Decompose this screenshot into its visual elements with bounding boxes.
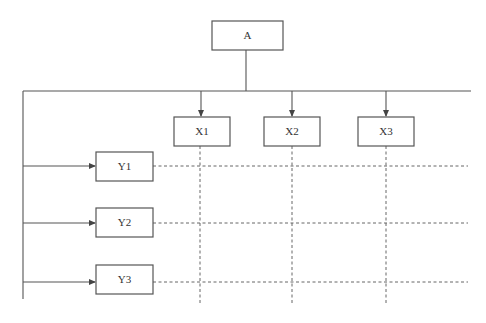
node-x3-label: X3 [379,125,393,137]
dashed-column-lines [200,146,386,303]
matrix-diagram: A X1 X2 X3 Y1 Y2 Y3 [0,0,486,323]
node-y1-label: Y1 [118,160,131,172]
node-y2: Y2 [96,208,153,237]
node-a-label: A [244,29,252,41]
node-x1: X1 [174,117,230,146]
node-y3-label: Y3 [118,273,132,285]
node-y3: Y3 [96,265,153,294]
connectors [23,50,471,299]
node-x1-label: X1 [195,125,208,137]
node-a: A [212,21,283,50]
node-y2-label: Y2 [118,216,131,228]
node-x3: X3 [358,117,414,146]
node-x2-label: X2 [285,125,298,137]
node-x2: X2 [264,117,320,146]
node-y1: Y1 [96,152,153,181]
